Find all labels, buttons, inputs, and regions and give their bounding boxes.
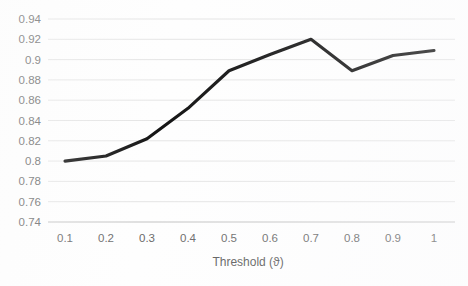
- chart-canvas: 0.940.920.90.880.860.840.820.80.780.760.…: [0, 0, 468, 286]
- y-axis-tick-label: 0.94: [19, 13, 42, 25]
- y-axis-tick-label: 0.74: [19, 216, 42, 228]
- y-axis-tick-label: 0.84: [19, 115, 42, 127]
- x-axis-tick-label: 1: [431, 232, 437, 244]
- y-axis-tick-label: 0.88: [19, 74, 41, 86]
- x-axis-title: Threshold (ϑ): [212, 255, 283, 269]
- y-axis-tick-label: 0.78: [19, 175, 41, 187]
- y-axis-tick-label: 0.92: [19, 33, 41, 45]
- y-axis-tick-label: 0.76: [19, 196, 41, 208]
- x-axis-tick-label: 0.8: [344, 232, 360, 244]
- x-axis-tick-label: 0.3: [139, 232, 155, 244]
- x-axis-tick-label: 0.4: [180, 232, 197, 244]
- x-axis-tick-label: 0.1: [57, 232, 73, 244]
- y-axis-tick-label: 0.82: [19, 135, 41, 147]
- y-axis-tick-label: 0.8: [25, 155, 41, 167]
- y-axis-tick-labels: 0.940.920.90.880.860.840.820.80.780.760.…: [19, 13, 42, 228]
- x-axis-tick-label: 0.9: [385, 232, 401, 244]
- line-chart: 0.940.920.90.880.860.840.820.80.780.760.…: [0, 0, 468, 286]
- y-axis-tick-label: 0.9: [25, 54, 41, 66]
- x-axis-tick-label: 0.6: [262, 232, 278, 244]
- x-axis-tick-label: 0.7: [303, 232, 319, 244]
- x-axis-tick-label: 0.2: [98, 232, 114, 244]
- x-axis-tick-label: 0.5: [221, 232, 237, 244]
- y-axis-tick-label: 0.86: [19, 94, 41, 106]
